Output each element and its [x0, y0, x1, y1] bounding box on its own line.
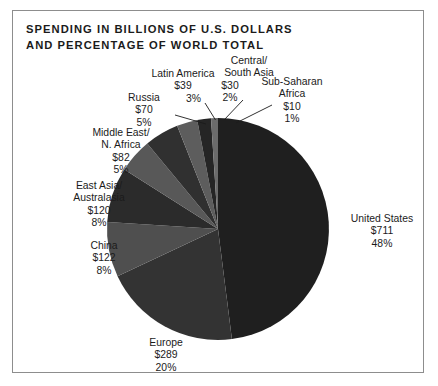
- slice-label-china: China $122 8%: [73, 240, 135, 277]
- slice-label-united-states-value: $711: [340, 225, 424, 237]
- slice-label-east-asia-name-1: East Asia/: [53, 180, 145, 192]
- slice-label-russia-value: $70: [113, 104, 175, 116]
- slice-label-central-south-asia-name-1: Central/: [203, 55, 295, 67]
- slice-label-central-south-asia-values: $30 2%: [210, 80, 250, 105]
- slice-label-middle-east: Middle East/ N. Africa $82 5%: [75, 127, 167, 177]
- slice-label-sub-saharan-africa-name-1: Sub-Saharan: [248, 76, 336, 88]
- slice-label-europe: Europe $289 20%: [130, 337, 202, 374]
- slice-label-united-states-name: United States: [340, 213, 424, 225]
- slice-label-east-asia: East Asia/ Australasia $120 8%: [53, 180, 145, 230]
- slice-label-china-pct: 8%: [73, 265, 135, 277]
- slice-label-sub-saharan-africa-value: $10: [248, 101, 336, 113]
- slice-label-latin-america-pct: 3%: [186, 93, 201, 105]
- slice-label-united-states-pct: 48%: [340, 238, 424, 250]
- slice-label-middle-east-name-2: N. Africa: [75, 139, 167, 151]
- slice-label-east-asia-name-2: Australasia: [53, 192, 145, 204]
- slice-label-sub-saharan-africa-name-2: Africa: [248, 88, 336, 100]
- slice-label-china-value: $122: [73, 252, 135, 264]
- slice-label-china-name: China: [73, 240, 135, 252]
- slice-label-central-south-asia-value: $30: [210, 80, 250, 92]
- slice-label-east-asia-value: $120: [53, 205, 145, 217]
- slice-label-europe-pct: 20%: [130, 362, 202, 374]
- slice-label-europe-value: $289: [130, 349, 202, 361]
- slice-label-east-asia-pct: 8%: [53, 217, 145, 229]
- pie-chart: Latin America $39 3% Central/ South Asia…: [0, 0, 438, 386]
- slice-label-middle-east-pct: 5%: [75, 164, 167, 176]
- leader-line-latin-america: [205, 103, 216, 120]
- slice-label-sub-saharan-africa-pct: 1%: [248, 113, 336, 125]
- pie-slice[interactable]: [218, 118, 329, 339]
- slice-label-russia-name: Russia: [113, 92, 175, 104]
- slice-label-sub-saharan-africa: Sub-Saharan Africa $10 1%: [248, 76, 336, 126]
- slice-label-middle-east-value: $82: [75, 152, 167, 164]
- slice-label-middle-east-name-1: Middle East/: [75, 127, 167, 139]
- slice-label-central-south-asia-pct: 2%: [210, 92, 250, 104]
- slice-label-russia: Russia $70 5%: [113, 92, 175, 129]
- slice-label-united-states: United States $711 48%: [340, 213, 424, 250]
- slice-label-europe-name: Europe: [130, 337, 202, 349]
